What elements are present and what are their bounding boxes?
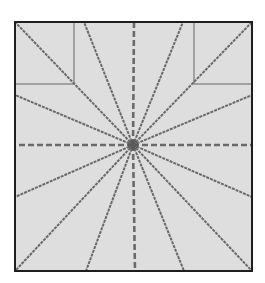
radial-diagram bbox=[0, 0, 265, 283]
center-hub bbox=[128, 140, 138, 150]
